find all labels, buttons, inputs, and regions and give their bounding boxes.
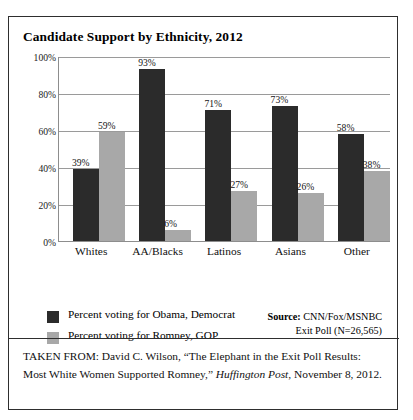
y-tick-label-20: 20%	[9, 200, 56, 211]
y-tick-label-100: 100%	[9, 52, 56, 63]
bar-value-label-romney: 27%	[230, 179, 248, 190]
bar-value-label-obama: 58%	[337, 122, 355, 133]
source-text-1: CNN/Fox/MSNBC	[301, 311, 382, 322]
bar-group: 73% 26%	[258, 57, 324, 241]
bar-obama	[205, 110, 231, 241]
bar-value-label-obama: 93%	[138, 57, 156, 68]
bar-obama	[139, 69, 165, 241]
bar-romney	[298, 193, 324, 241]
category-label: Asians	[257, 245, 323, 257]
bar-groups: 39% 59% 93% 6% 71% 27%	[59, 57, 390, 241]
caption-publication: Huffington Post	[216, 368, 288, 380]
bar-obama	[73, 169, 99, 241]
plot-area: 39% 59% 93% 6% 71% 27%	[58, 57, 390, 242]
chart-title: Candidate Support by Ethnicity, 2012	[23, 29, 243, 45]
bar-obama	[272, 106, 298, 241]
bar-value-label-romney: 38%	[363, 159, 381, 170]
bar-romney	[231, 191, 257, 241]
category-axis-labels: Whites AA/Blacks Latinos Asians Other	[58, 245, 390, 257]
category-label: Other	[324, 245, 390, 257]
bar-value-label-obama: 71%	[204, 98, 222, 109]
y-tick-label-40: 40%	[9, 163, 56, 174]
caption-line-1: TAKEN FROM: David C. Wilson, “The Elepha…	[23, 350, 321, 362]
legend-label-romney: Percent voting for Romney, GOP	[68, 329, 218, 341]
bar-romney	[165, 230, 191, 241]
bar-romney	[364, 171, 390, 241]
bar-value-label-obama: 73%	[271, 94, 289, 105]
bar-group: 71% 27%	[191, 57, 257, 241]
source-note: Source: CNN/Fox/MSNBC Exit Poll (N=26,56…	[222, 310, 382, 338]
figure-container: Candidate Support by Ethnicity, 2012 100…	[8, 16, 398, 410]
caption-line-2b: ,	[288, 368, 291, 380]
bar-value-label-romney: 26%	[297, 181, 315, 192]
source-label: Source:	[268, 311, 301, 322]
caption-line-3: November 8, 2012.	[294, 368, 382, 380]
y-tick-label-0: 0%	[9, 237, 56, 248]
bar-value-label-romney: 59%	[98, 120, 116, 131]
chart-plot-region: 100% 80% 60% 40% 20% 0% 39% 59%	[9, 57, 397, 289]
category-label: Latinos	[191, 245, 257, 257]
caption-divider	[9, 338, 399, 339]
y-tick-label-80: 80%	[9, 89, 56, 100]
source-line-1: Source: CNN/Fox/MSNBC	[222, 310, 382, 324]
legend-label-obama: Percent voting for Obama, Democrat	[68, 308, 235, 320]
bar-group: 58% 38%	[324, 57, 390, 241]
bar-value-label-romney: 6%	[164, 218, 177, 229]
bar-group: 39% 59%	[59, 57, 125, 241]
figure-caption: TAKEN FROM: David C. Wilson, “The Elepha…	[23, 348, 383, 383]
legend-swatch-icon-obama	[47, 311, 59, 323]
bar-romney	[99, 132, 125, 241]
category-label: Whites	[58, 245, 124, 257]
source-line-2: Exit Poll (N=26,565)	[222, 324, 382, 338]
y-axis: 100% 80% 60% 40% 20% 0%	[9, 57, 56, 242]
bar-group: 93% 6%	[125, 57, 191, 241]
category-label: AA/Blacks	[124, 245, 190, 257]
y-tick-label-60: 60%	[9, 126, 56, 137]
bar-value-label-obama: 39%	[72, 157, 90, 168]
bar-obama	[338, 134, 364, 241]
